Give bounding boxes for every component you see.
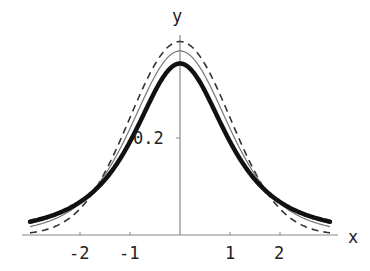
x-axis-label: x	[348, 227, 358, 247]
plot-canvas: y x 0.2 -2 -1 1 2	[0, 0, 370, 271]
x-tick-label-1: 1	[225, 243, 235, 263]
x-tick-label-neg2: -2	[69, 243, 89, 263]
x-tick-label-2: 2	[274, 243, 284, 263]
y-axis-label: y	[172, 6, 182, 26]
y-tick-label: 0.2	[133, 128, 164, 148]
x-tick-label-neg1: -1	[119, 243, 139, 263]
